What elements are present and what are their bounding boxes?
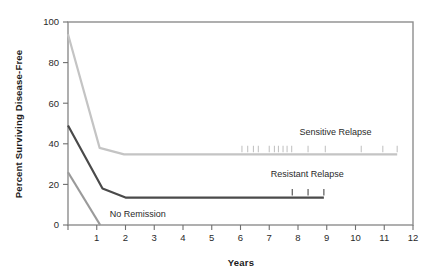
x-tick-label: 12 <box>408 232 419 243</box>
y-tick-label: 20 <box>48 179 59 190</box>
x-tick-label: 5 <box>209 232 214 243</box>
x-tick-label: 8 <box>295 232 300 243</box>
y-tick-label: 0 <box>54 219 59 230</box>
series-label-sensitive-relapse: Sensitive Relapse <box>299 127 371 137</box>
x-tick-label: 6 <box>238 232 243 243</box>
x-axis-title: Years <box>228 257 254 268</box>
x-axis-ticks <box>68 225 413 230</box>
y-tick-label: 80 <box>48 57 59 68</box>
series-label-resistant-relapse: Resistant Relapse <box>271 169 344 179</box>
survival-chart: Percent Surviving Disease-Free Years 020… <box>0 0 442 274</box>
x-tick-label: 4 <box>180 232 185 243</box>
series-label-no-remission: No Remission <box>110 209 166 219</box>
y-axis-title: Percent Surviving Disease-Free <box>13 50 24 199</box>
series-labels: Sensitive RelapseResistant RelapseNo Rem… <box>110 127 372 219</box>
series-line <box>68 172 100 225</box>
chart-svg: Percent Surviving Disease-Free Years 020… <box>0 0 442 274</box>
y-axis-ticks <box>63 22 68 225</box>
x-tick-label: 1 <box>94 232 99 243</box>
x-tick-label: 9 <box>324 232 329 243</box>
y-tick-label: 60 <box>48 98 59 109</box>
series-line <box>68 126 324 198</box>
x-tick-label: 2 <box>123 232 128 243</box>
y-tick-label: 40 <box>48 138 59 149</box>
y-tick-label: 100 <box>43 16 59 27</box>
x-tick-label: 11 <box>379 232 389 243</box>
x-tick-label: 10 <box>350 232 361 243</box>
y-axis-tick-labels: 020406080100 <box>43 16 59 230</box>
x-tick-label: 3 <box>152 232 157 243</box>
x-axis-tick-labels: 123456789101112 <box>94 232 418 243</box>
x-tick-label: 7 <box>267 232 272 243</box>
